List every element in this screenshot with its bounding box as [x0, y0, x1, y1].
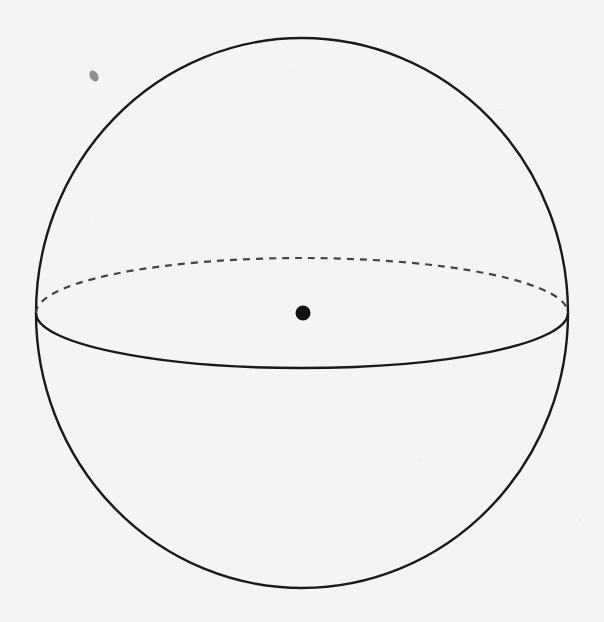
equator-back-dashed: [36, 258, 568, 313]
equator-front-solid: [36, 313, 568, 368]
paper-texture: [35, 69, 581, 521]
center-point: [296, 306, 311, 321]
sphere-drawing: [0, 0, 604, 622]
sphere-diagram: Sphere with dashed hidden equator and ma…: [0, 0, 604, 622]
smudge-mark: [88, 69, 101, 83]
